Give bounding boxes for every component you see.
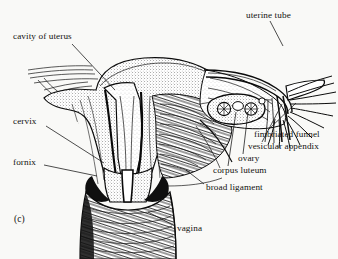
label-fimbriated-funnel: fimbriated funnel — [254, 129, 320, 139]
label-broad-ligament: broad ligament — [206, 182, 263, 192]
anatomy-figure: cavity of uterus uterine tube cervix for… — [0, 0, 338, 259]
label-corpus-luteum: corpus luteum — [213, 165, 267, 175]
label-vagina: vagina — [177, 223, 202, 233]
leader-fornix — [44, 165, 97, 176]
label-ovary: ovary — [238, 153, 259, 163]
label-vesicular-appendix: vesicular appendix — [248, 141, 319, 151]
figure-panel-label: (c) — [14, 214, 25, 224]
label-uterine-tube: uterine tube — [246, 10, 291, 20]
label-cervix: cervix — [13, 116, 37, 126]
label-fornix: fornix — [13, 157, 36, 167]
corpus-luteum-follicle — [217, 102, 230, 115]
ovary-structure — [208, 94, 266, 124]
vesicular-follicle — [245, 103, 257, 115]
leader-broad-ligament — [186, 170, 204, 184]
label-cavity-of-uterus: cavity of uterus — [13, 31, 72, 41]
leader-uterine-tube — [270, 21, 283, 46]
